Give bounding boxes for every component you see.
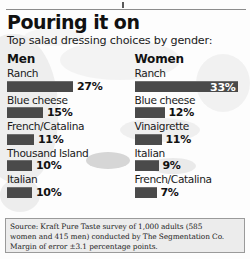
column-men: Men Ranch 27% Blue cheese 15% bbox=[7, 52, 116, 200]
bar-label: Blue cheese bbox=[135, 94, 244, 107]
bar-fill bbox=[135, 134, 162, 145]
bar-value: 11% bbox=[38, 133, 63, 146]
bar-label: Italian bbox=[7, 173, 116, 186]
bar-fill bbox=[7, 187, 32, 198]
bar-value: 9% bbox=[163, 159, 181, 172]
bar-row: 11% bbox=[7, 133, 116, 146]
bar-fill bbox=[7, 134, 34, 145]
bar-value: 15% bbox=[47, 106, 72, 119]
source-note-box: Source: Kraft Pure Taste survey of 1,000… bbox=[5, 218, 245, 253]
bar-fill bbox=[7, 160, 32, 171]
bar-label: French/Catalina bbox=[135, 173, 244, 186]
bar-label: Ranch bbox=[7, 67, 116, 80]
bar-row: 27% bbox=[7, 80, 116, 93]
source-line-3: Margin of error ±3.1 percentage points. bbox=[10, 242, 240, 252]
bar-label: Blue cheese bbox=[7, 94, 116, 107]
bar-fill bbox=[7, 107, 43, 118]
infographic-panel: Pouring it on Top salad dressing choices… bbox=[0, 0, 250, 259]
bar-fill: 33% bbox=[135, 81, 238, 92]
bar-label: Vinaigrette bbox=[135, 120, 244, 133]
list-item: French/Catalina 11% bbox=[7, 120, 116, 146]
top-divider-rule bbox=[6, 9, 246, 10]
list-item: Blue cheese 15% bbox=[7, 94, 116, 120]
list-item: Ranch 27% bbox=[7, 67, 116, 93]
list-item: French/Catalina 7% bbox=[135, 173, 244, 199]
bar-fill bbox=[135, 160, 159, 171]
bar-value: 33% bbox=[210, 80, 235, 93]
bar-value: 27% bbox=[77, 80, 102, 93]
bar-fill bbox=[135, 187, 157, 198]
list-item: Blue cheese 12% bbox=[135, 94, 244, 120]
bar-value: 10% bbox=[36, 186, 61, 199]
column-header-men: Men bbox=[7, 52, 116, 66]
page-subtitle: Top salad dressing choices by gender: bbox=[7, 34, 243, 47]
bar-row: 7% bbox=[135, 186, 244, 199]
bar-row: 10% bbox=[7, 159, 116, 172]
bar-label: Thousand Island bbox=[7, 147, 116, 160]
bar-row: 9% bbox=[135, 159, 244, 172]
bar-label: Italian bbox=[135, 147, 244, 160]
column-header-women: Women bbox=[135, 52, 244, 66]
list-item: Thousand Island 10% bbox=[7, 147, 116, 173]
list-item: Vinaigrette 11% bbox=[135, 120, 244, 146]
bar-label: Ranch bbox=[135, 67, 244, 80]
bar-row: 10% bbox=[7, 186, 116, 199]
bar-label: French/Catalina bbox=[7, 120, 116, 133]
top-rule-tick bbox=[122, 2, 124, 8]
bar-row: 12% bbox=[135, 106, 244, 119]
bar-value: 7% bbox=[161, 186, 179, 199]
bar-fill bbox=[7, 81, 73, 92]
source-line-1: Source: Kraft Pure Taste survey of 1,000… bbox=[10, 222, 240, 232]
bar-row: 33% bbox=[135, 80, 244, 93]
column-women: Women Ranch 33% Blue cheese 12% bbox=[135, 52, 244, 200]
list-item: Italian 10% bbox=[7, 173, 116, 199]
bar-value: 12% bbox=[169, 106, 194, 119]
list-item: Ranch 33% bbox=[135, 67, 244, 93]
bar-fill bbox=[135, 107, 165, 118]
source-line-2: women and 415 men) conducted by The Segm… bbox=[10, 232, 240, 242]
chart-columns: Men Ranch 27% Blue cheese 15% bbox=[7, 52, 243, 200]
bar-row: 15% bbox=[7, 106, 116, 119]
bar-row: 11% bbox=[135, 133, 244, 146]
page-title: Pouring it on bbox=[7, 0, 243, 32]
bar-value: 11% bbox=[166, 133, 191, 146]
list-item: Italian 9% bbox=[135, 147, 244, 173]
bar-value: 10% bbox=[36, 159, 61, 172]
